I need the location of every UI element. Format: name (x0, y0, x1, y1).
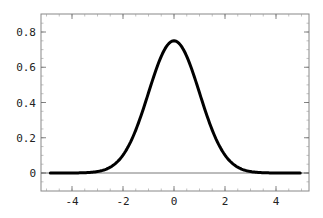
x-tick-label: 4 (273, 195, 280, 208)
x-tick-label: -2 (116, 195, 129, 208)
y-axis-tick-labels: 00.20.40.60.8 (16, 26, 36, 180)
x-tick-label: -4 (65, 195, 79, 208)
chart: 00.20.40.60.8 -4-2024 (0, 0, 323, 218)
x-tick-label: 2 (222, 195, 229, 208)
y-tick-label: 0.4 (16, 97, 36, 110)
x-tick-label: 0 (171, 195, 178, 208)
y-tick-label: 0.8 (16, 26, 36, 39)
y-tick-label: 0 (29, 167, 36, 180)
y-tick-label: 0.2 (16, 132, 36, 145)
y-tick-label: 0.6 (16, 61, 36, 74)
series-line (50, 41, 300, 173)
x-axis-tick-labels: -4-2024 (65, 195, 279, 208)
